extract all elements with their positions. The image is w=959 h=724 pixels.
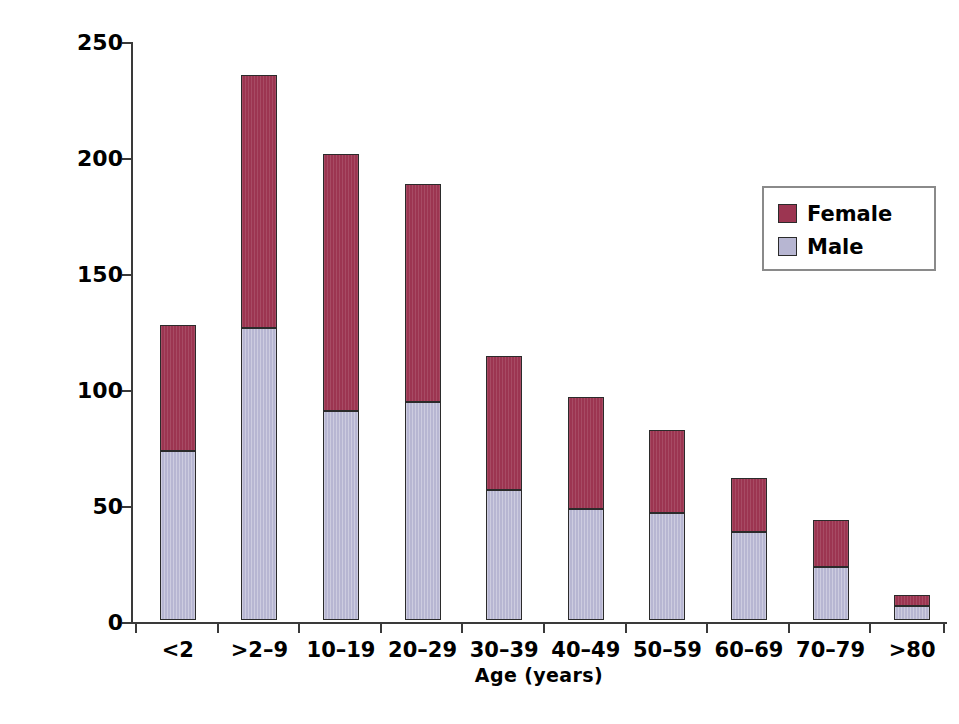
x-axis-tick-mark [135,622,137,633]
bar->80[interactable] [894,594,930,620]
y-axis-tick-mark [122,158,131,160]
y-axis-tick-label: 200 [77,146,123,171]
bar-<2[interactable] [160,325,196,620]
bar-40–49[interactable] [568,397,604,620]
y-axis-tick-mark [122,506,131,508]
legend-item-male[interactable]: Male [778,230,934,263]
bar-segment-male[interactable] [894,606,930,620]
legend-label: Male [807,235,864,259]
x-axis-tick-mark [625,622,627,633]
bar-segment-female[interactable] [160,325,196,450]
x-axis-tick-mark [869,622,871,633]
bar-segment-male[interactable] [813,567,849,620]
x-axis-tick-mark [943,622,945,633]
bar-segment-female[interactable] [731,478,767,531]
bar-20–29[interactable] [405,184,441,620]
y-axis-tick-mark [122,42,131,44]
bar-segment-female[interactable] [323,154,359,412]
bar-segment-male[interactable] [160,451,196,620]
bar-segment-female[interactable] [894,595,930,607]
legend: FemaleMale [762,186,936,271]
x-axis-title: Age (years) [131,664,947,686]
x-axis-line [131,622,947,624]
bar->2–9[interactable] [241,75,277,620]
x-axis-tick-mark [380,622,382,633]
bar-70–79[interactable] [813,520,849,620]
y-axis-tick-label: 150 [77,262,123,287]
bar-segment-male[interactable] [731,532,767,620]
x-axis-tick-mark [461,622,463,633]
y-axis-tick-mark [122,274,131,276]
y-axis-title: Number of patients [0,0,40,724]
bar-segment-male[interactable] [486,490,522,620]
legend-label: Female [807,202,892,226]
plot-area: 050100150200250 <2>2–910–1920–2930–3940–… [131,42,947,622]
legend-swatch-icon [778,204,797,223]
y-axis-tick-label: 0 [108,610,123,635]
y-axis-line [131,42,133,623]
bar-segment-male[interactable] [568,509,604,620]
bar-30–39[interactable] [486,356,522,620]
bar-10–19[interactable] [323,154,359,620]
bar-segment-male[interactable] [323,411,359,620]
x-axis-tick-mark [543,622,545,633]
legend-swatch-icon [778,237,797,256]
x-axis-tick-mark [706,622,708,633]
y-axis-tick-label: 50 [92,494,123,519]
y-axis-tick-mark [122,622,131,624]
x-axis-category-label: >80 [857,638,959,662]
bar-segment-female[interactable] [486,356,522,491]
bar-60–69[interactable] [731,478,767,620]
bar-segment-male[interactable] [405,402,441,620]
y-axis-tick-label: 100 [77,378,123,403]
stacked-bar-chart: Number of patients Age (years) 050100150… [0,0,959,724]
bar-segment-female[interactable] [813,520,849,566]
bar-segment-female[interactable] [568,397,604,508]
y-axis-tick-mark [122,390,131,392]
y-axis-tick-label: 250 [77,30,123,55]
bar-segment-male[interactable] [649,513,685,620]
bar-segment-male[interactable] [241,328,277,620]
x-axis-tick-mark [788,622,790,633]
x-axis-tick-mark [298,622,300,633]
bar-segment-female[interactable] [649,430,685,514]
legend-item-female[interactable]: Female [778,197,934,230]
bar-50–59[interactable] [649,430,685,620]
x-axis-tick-mark [217,622,219,633]
bar-segment-female[interactable] [241,75,277,328]
bar-segment-female[interactable] [405,184,441,402]
